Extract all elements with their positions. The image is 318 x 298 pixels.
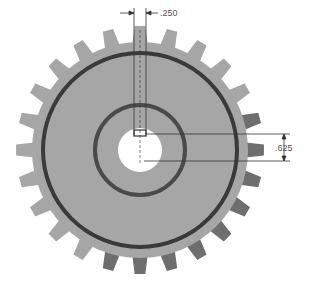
gear-tooth bbox=[132, 256, 147, 274]
gear-tooth bbox=[246, 142, 264, 157]
gear-drawing: .250 .625 bbox=[0, 0, 318, 298]
keyway-width-dimension bbox=[120, 11, 158, 15]
gear-tooth bbox=[16, 142, 34, 157]
keyway-width-label: .250 bbox=[160, 8, 178, 18]
keyway-depth-label: .625 bbox=[275, 143, 293, 153]
